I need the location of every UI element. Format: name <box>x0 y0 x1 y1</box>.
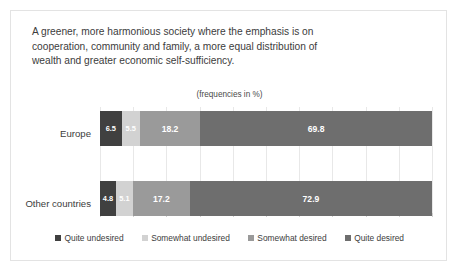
bar-segment: 69.8 <box>200 111 432 146</box>
legend-swatch-icon <box>142 235 148 241</box>
category-label-europe: Europe <box>0 128 91 139</box>
gridline-100 <box>432 107 433 213</box>
bar-value-label: 4.8 <box>103 194 113 203</box>
legend-item[interactable]: Somewhat undesired <box>142 233 230 243</box>
bar-value-label: 17.2 <box>153 194 170 204</box>
bar-row-europe: 6.55.518.269.8 <box>100 111 432 146</box>
tick-100 <box>432 213 433 217</box>
chart-legend: Quite undesiredSomewhat undesiredSomewha… <box>11 233 448 243</box>
bar-segment: 6.5 <box>100 111 122 146</box>
legend-item[interactable]: Somewhat desired <box>248 233 327 243</box>
chart-title-line-2: cooperation, community and family, a mor… <box>32 40 402 55</box>
bar-value-label: 6.5 <box>106 124 116 133</box>
legend-label: Quite desired <box>354 233 404 243</box>
chart-subtitle: (frequencies in %) <box>11 90 448 99</box>
bar-row-other-countries: 4.85.117.272.9 <box>100 181 432 216</box>
bar-segment: 5.5 <box>122 111 140 146</box>
bar-segment: 17.2 <box>133 181 190 216</box>
chart-title-line-1: A greener, more harmonious society where… <box>32 25 402 40</box>
bar-value-label: 5.1 <box>119 194 129 203</box>
bar-segment: 18.2 <box>140 111 200 146</box>
bar-segment: 72.9 <box>190 181 432 216</box>
legend-label: Quite undesired <box>64 233 123 243</box>
legend-swatch-icon <box>248 235 254 241</box>
bar-value-label: 69.8 <box>308 124 325 134</box>
legend-swatch-icon <box>345 235 351 241</box>
legend-swatch-icon <box>55 235 61 241</box>
plot-area: 6.55.518.269.8 4.85.117.272.9 <box>100 107 432 213</box>
legend-label: Somewhat undesired <box>151 233 230 243</box>
category-label-other-countries: Other countries <box>0 198 91 209</box>
bar-value-label: 18.2 <box>162 124 179 134</box>
chart-title: A greener, more harmonious society where… <box>32 25 402 69</box>
bar-value-label: 72.9 <box>303 194 320 204</box>
legend-label: Somewhat desired <box>257 233 326 243</box>
legend-item[interactable]: Quite undesired <box>55 233 124 243</box>
bar-segment: 5.1 <box>116 181 133 216</box>
chart-card: A greener, more harmonious society where… <box>10 10 447 261</box>
legend-item[interactable]: Quite desired <box>345 233 404 243</box>
chart-title-line-3: wealth and greater economic self-suffici… <box>32 54 402 69</box>
bar-value-label: 5.5 <box>126 124 136 133</box>
bar-segment: 4.8 <box>100 181 116 216</box>
